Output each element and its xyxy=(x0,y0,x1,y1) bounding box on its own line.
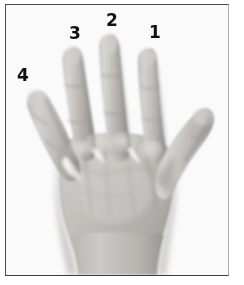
fingertip-ring xyxy=(63,47,81,65)
fingertip-middle xyxy=(100,34,118,54)
digit-label-1: 1 xyxy=(149,24,160,41)
figure-root: 1 2 3 4 xyxy=(0,0,244,285)
digit-label-3: 3 xyxy=(69,25,80,42)
hand-photograph: 1 2 3 4 xyxy=(6,5,228,275)
digit-label-4: 4 xyxy=(17,67,28,84)
digit-label-2: 2 xyxy=(106,12,117,29)
wrist xyxy=(71,232,163,275)
dorsum-highlight xyxy=(73,156,152,224)
knuckle-highlight-index xyxy=(138,140,164,160)
fingertip-little xyxy=(27,90,45,106)
fingertip-index xyxy=(139,49,157,67)
hand-illustration xyxy=(6,5,228,275)
figure-border-frame: 1 2 3 4 xyxy=(5,4,229,276)
